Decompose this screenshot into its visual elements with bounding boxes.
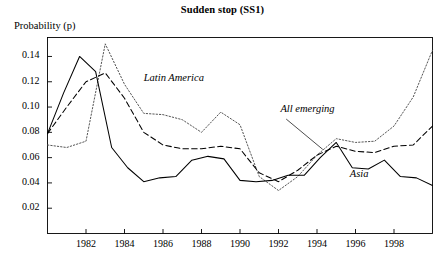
y-tick-label: 0.06 xyxy=(6,151,40,162)
y-tick-label: 0.08 xyxy=(6,125,40,136)
y-tick-label: 0.02 xyxy=(6,201,40,212)
x-tick-label: 1994 xyxy=(297,238,337,249)
plot-area xyxy=(0,0,445,276)
y-tick-label: 0.04 xyxy=(6,176,40,187)
axis-ticks xyxy=(48,56,395,233)
x-tick-label: 1992 xyxy=(259,238,299,249)
y-tick-label: 0.12 xyxy=(6,75,40,86)
x-tick-label: 1982 xyxy=(66,238,106,249)
leader-line-all-emerging xyxy=(286,119,323,149)
x-tick-label: 1986 xyxy=(143,238,183,249)
series-label-asia: Asia xyxy=(350,168,369,179)
x-tick-label: 1988 xyxy=(182,238,222,249)
x-tick-label: 1990 xyxy=(220,238,260,249)
series-lines xyxy=(48,44,433,191)
x-tick-label: 1996 xyxy=(336,238,376,249)
series-line-asia xyxy=(48,56,433,185)
x-tick-label: 1984 xyxy=(105,238,145,249)
y-tick-label: 0.14 xyxy=(6,49,40,60)
y-tick-label: 0.10 xyxy=(6,100,40,111)
series-label-all-emerging: All emerging xyxy=(280,103,334,114)
plot-frame xyxy=(48,38,433,234)
x-tick-label: 1998 xyxy=(374,238,414,249)
annotation-leader-lines xyxy=(286,119,323,149)
series-label-latin-america: Latin America xyxy=(144,72,204,83)
chart-figure: Sudden stop (SS1) Probability (p) 0.020.… xyxy=(0,0,445,276)
